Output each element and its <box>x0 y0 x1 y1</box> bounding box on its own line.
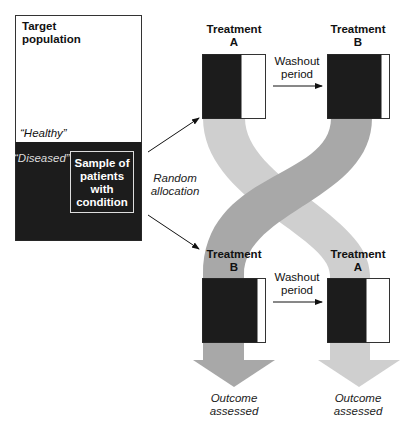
top-treatment-a-box <box>203 55 266 119</box>
sample-label: Sample of patients with condition <box>70 157 134 209</box>
top-treatment-b-box <box>328 55 390 119</box>
outcome-left-label: Outcome assessed <box>194 392 274 418</box>
allocation-arrow-up <box>148 118 199 152</box>
random-allocation-label: Random allocation <box>140 172 210 198</box>
top-treatment-a-label: Treatment A <box>194 23 274 49</box>
bottom-treatment-a-box <box>328 279 390 343</box>
top-washout-label: Washout period <box>266 55 328 81</box>
bottom-treatment-b-label: Treatment B <box>194 248 274 274</box>
target-population-title: Target population <box>22 20 92 46</box>
top-treatment-b-label: Treatment B <box>318 23 398 49</box>
diseased-label: “Diseased” <box>14 152 70 165</box>
bottom-treatment-b-box <box>203 279 266 343</box>
allocation-arrow-down <box>148 215 199 249</box>
bottom-treatment-a-label: Treatment A <box>318 248 398 274</box>
outcome-right-label: Outcome assessed <box>318 392 398 418</box>
healthy-label: “Healthy” <box>20 127 67 140</box>
diagram-canvas <box>0 0 409 426</box>
bottom-washout-label: Washout period <box>266 271 328 297</box>
